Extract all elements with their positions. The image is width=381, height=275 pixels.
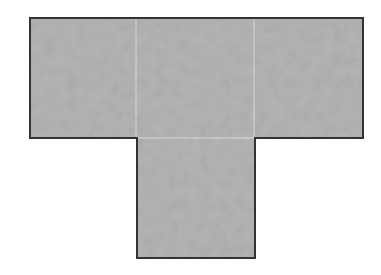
t-shape-diagram bbox=[0, 0, 381, 275]
square-top-left bbox=[30, 18, 136, 138]
square-top-right bbox=[254, 18, 363, 138]
square-bottom-stem bbox=[137, 138, 255, 258]
square-top-center bbox=[136, 18, 254, 138]
